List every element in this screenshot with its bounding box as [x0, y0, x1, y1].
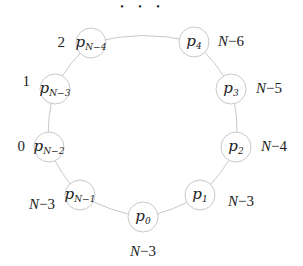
process-node-p0: p0N−3 [128, 202, 158, 259]
ring-nodes: pN−42p4N−6p3N−5p2N−4p1N−3p0N−3pN−1N−3pN−… [18, 27, 288, 259]
process-node-pN-1: pN−1N−3 [28, 180, 95, 212]
process-node-p2: p2N−4 [221, 132, 287, 162]
node-value-label: 1 [23, 73, 31, 89]
node-value-label: 2 [58, 34, 66, 50]
process-node-pN-2: pN−20 [18, 132, 65, 162]
process-node-p4: p4N−6 [179, 27, 244, 57]
node-value-label: N−3 [227, 193, 254, 209]
node-value-label: N−3 [28, 196, 55, 212]
ellipsis: • • • [120, 1, 166, 12]
node-value-label: N−6 [217, 33, 244, 49]
node-value-label: N−5 [255, 80, 282, 96]
ring-diagram: • • • pN−42p4N−6p3N−5p2N−4p1N−3p0N−3pN−1… [0, 0, 303, 266]
process-node-pN-4: pN−42 [58, 28, 107, 58]
node-value-label: N−4 [260, 138, 287, 154]
process-node-p1: p1N−3 [185, 180, 254, 210]
process-node-p3: p3N−5 [216, 74, 282, 104]
process-node-pN-3: pN−31 [23, 73, 71, 104]
node-value-label: N−3 [129, 243, 156, 259]
node-value-label: 0 [18, 138, 26, 154]
